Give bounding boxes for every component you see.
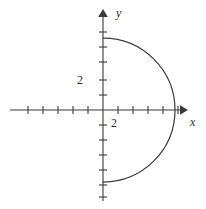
x-axis-arrowhead <box>180 105 188 115</box>
coordinate-plane-svg <box>0 0 206 209</box>
x-axis-label: x <box>190 116 195 128</box>
x-axis-tick-label-2: 2 <box>111 117 117 129</box>
graph-figure: 2 2 y x <box>0 0 206 209</box>
x-axis-group <box>10 105 188 115</box>
y-axis-tick-label-2: 2 <box>77 74 83 86</box>
y-axis-label: y <box>116 7 121 19</box>
y-axis-arrowhead <box>98 9 108 17</box>
